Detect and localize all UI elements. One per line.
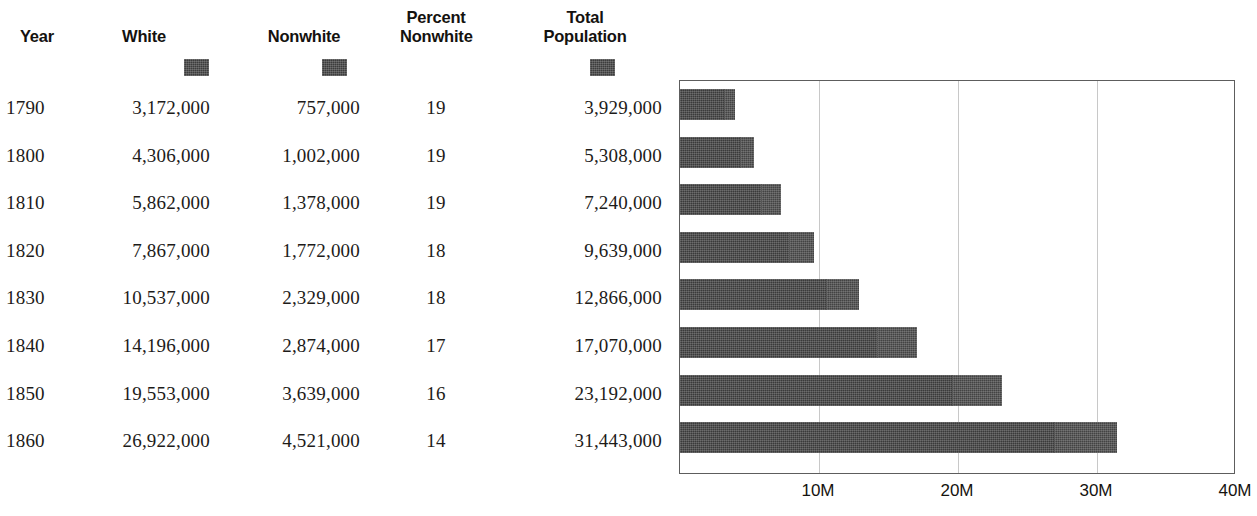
bar-segment-nonwhite (740, 137, 754, 168)
bar-segment-nonwhite (952, 375, 1003, 406)
bar-segment-nonwhite (724, 89, 735, 120)
bar-segment-nonwhite (1054, 422, 1117, 453)
bar-1800 (680, 137, 754, 168)
bar-1820 (680, 232, 814, 263)
bar-1840 (680, 327, 917, 358)
gridline-10M (819, 81, 820, 473)
stacked-bar-chart: 10M20M30M40M (0, 0, 1257, 516)
bar-segment-white (680, 375, 952, 406)
bar-segment-nonwhite (789, 232, 814, 263)
bar-segment-white (680, 279, 826, 310)
bar-segment-white (680, 89, 724, 120)
bar-segment-nonwhite (826, 279, 858, 310)
bar-segment-white (680, 327, 877, 358)
plot-area (679, 80, 1235, 474)
bar-1860 (680, 422, 1117, 453)
bar-1850 (680, 375, 1002, 406)
bar-segment-white (680, 232, 789, 263)
gridline-20M (958, 81, 959, 473)
bar-segment-white (680, 137, 740, 168)
bar-segment-white (680, 422, 1054, 453)
x-tick-30M: 30M (1079, 481, 1112, 501)
bar-1790 (680, 89, 735, 120)
x-tick-20M: 20M (940, 481, 973, 501)
bar-segment-white (680, 184, 761, 215)
gridline-30M (1097, 81, 1098, 473)
bar-segment-nonwhite (877, 327, 917, 358)
x-tick-10M: 10M (801, 481, 834, 501)
x-tick-40M: 40M (1218, 481, 1251, 501)
bar-1830 (680, 279, 859, 310)
bar-1810 (680, 184, 781, 215)
bar-segment-nonwhite (761, 184, 780, 215)
